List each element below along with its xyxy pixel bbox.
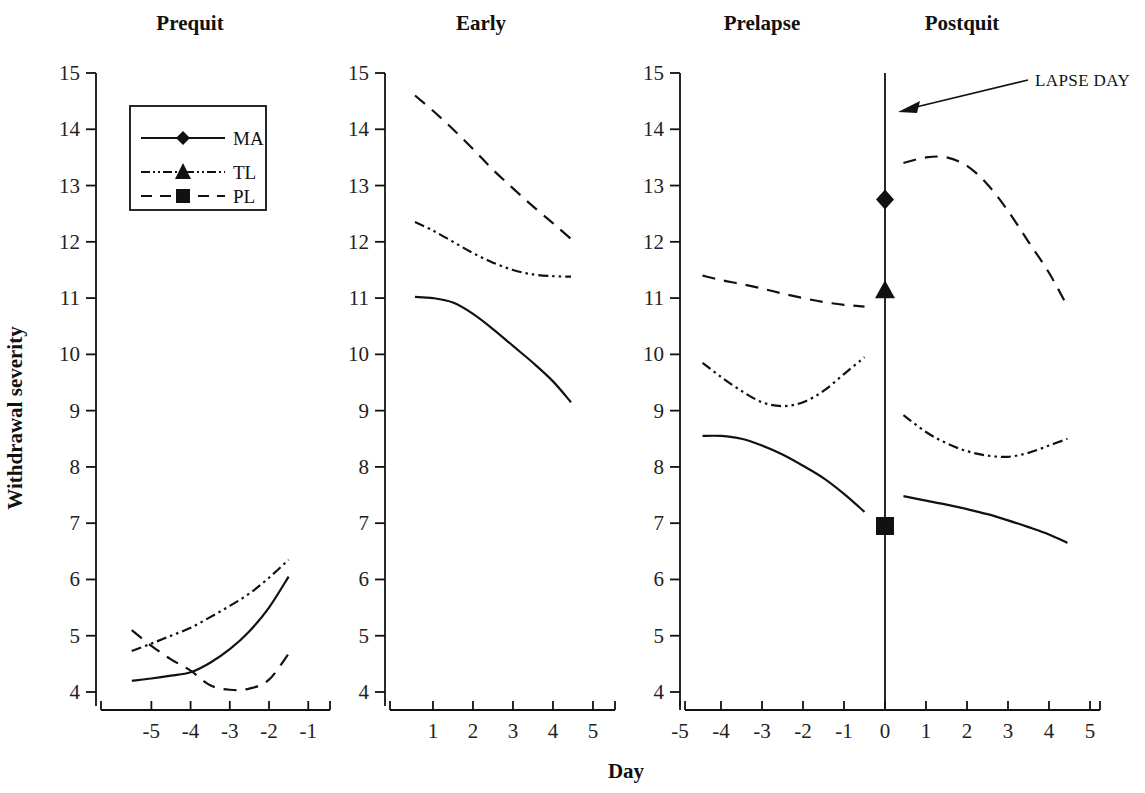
- y-tick-label: 14: [643, 117, 665, 141]
- x-tick-label: 2: [962, 719, 973, 743]
- series-line-ma-postquit: [903, 496, 1067, 543]
- y-tick-label: 6: [359, 567, 370, 591]
- y-tick-label: 9: [70, 399, 81, 423]
- y-tick-label: 4: [70, 680, 81, 704]
- y-tick-label: 13: [348, 174, 369, 198]
- lapse-day-annotation: LAPSE DAY: [898, 71, 1130, 113]
- x-tick-label: 3: [508, 719, 519, 743]
- x-tick-label: -2: [260, 719, 278, 743]
- triangle-icon: [875, 280, 895, 298]
- x-tick-label: -4: [182, 719, 200, 743]
- legend-label-pl: PL: [233, 186, 255, 207]
- y-tick-label: 15: [59, 61, 80, 85]
- legend-label-ma: MA: [233, 128, 264, 149]
- y-tick-label: 13: [59, 174, 80, 198]
- lapse-day-label: LAPSE DAY: [1035, 71, 1130, 90]
- y-tick-label: 15: [643, 61, 664, 85]
- x-tick-label: -5: [671, 719, 689, 743]
- y-tick-label: 7: [359, 511, 370, 535]
- y-tick-label: 12: [348, 230, 369, 254]
- square-icon: [176, 189, 190, 203]
- series-line-tl-postquit: [903, 415, 1067, 457]
- x-tick-label: -4: [712, 719, 730, 743]
- y-tick-label: 14: [59, 117, 81, 141]
- y-tick-label: 11: [644, 286, 664, 310]
- diamond-icon: [876, 190, 894, 210]
- y-tick-label: 10: [59, 342, 80, 366]
- series-line-pl-prequit: [132, 630, 289, 690]
- panel-title-prequit: Prequit: [156, 11, 223, 35]
- lapse-day-marker-layer: [875, 73, 895, 710]
- x-tick-label: 0: [880, 719, 891, 743]
- x-tick-label: -2: [794, 719, 812, 743]
- y-tick-label: 7: [70, 511, 81, 535]
- y-tick-label: 8: [359, 455, 370, 479]
- data-series-layer: [132, 96, 1068, 691]
- series-line-tl-prequit: [132, 560, 289, 651]
- figure-canvas: Prequit Early Prelapse Postquit Withdraw…: [0, 0, 1145, 793]
- series-line-pl-postquit: [903, 157, 1067, 307]
- x-tick-label: 1: [921, 719, 932, 743]
- x-tick-label: -5: [143, 719, 161, 743]
- x-tick-label: 5: [588, 719, 599, 743]
- x-tick-label: 1: [428, 719, 439, 743]
- y-tick-label: 9: [359, 399, 370, 423]
- x-tick-label: 3: [1003, 719, 1014, 743]
- panel-title-early: Early: [456, 11, 507, 35]
- lapse-day-arrow-head: [898, 101, 920, 113]
- x-tick-label: -3: [753, 719, 771, 743]
- y-tick-label: 6: [654, 567, 665, 591]
- y-tick-label: 10: [348, 342, 369, 366]
- legend-label-tl: TL: [233, 162, 256, 183]
- x-tick-label: 2: [468, 719, 479, 743]
- y-tick-label: 10: [643, 342, 664, 366]
- y-tick-label: 14: [348, 117, 370, 141]
- x-tick-label: 4: [1044, 719, 1055, 743]
- y-tick-label: 15: [348, 61, 369, 85]
- series-line-tl-early: [415, 222, 571, 277]
- series-line-ma-prelapse: [703, 436, 865, 512]
- series-line-ma-prequit: [132, 577, 289, 681]
- series-line-pl-early: [415, 96, 571, 239]
- lapse-day-arrow-shaft: [912, 80, 1028, 108]
- y-tick-label: 7: [654, 511, 665, 535]
- series-line-ma-early: [415, 297, 571, 402]
- panel-title-postquit: Postquit: [925, 11, 1000, 35]
- y-tick-label: 4: [654, 680, 665, 704]
- square-icon: [876, 517, 894, 535]
- y-tick-label: 5: [654, 624, 665, 648]
- legend[interactable]: MA TL PL: [130, 106, 266, 210]
- y-tick-label: 9: [654, 399, 665, 423]
- x-tick-label: -3: [221, 719, 239, 743]
- series-line-pl-prelapse: [703, 276, 865, 307]
- y-tick-label: 11: [60, 286, 80, 310]
- y-axis-label: Withdrawal severity: [3, 326, 27, 510]
- y-tick-label: 4: [359, 680, 370, 704]
- y-tick-label: 13: [643, 174, 664, 198]
- x-tick-label: 4: [548, 719, 559, 743]
- panel-title-prelapse: Prelapse: [724, 11, 801, 35]
- x-tick-label: -1: [299, 719, 317, 743]
- series-line-tl-prelapse: [703, 357, 865, 406]
- y-tick-label: 12: [59, 230, 80, 254]
- x-tick-label: -1: [835, 719, 853, 743]
- y-tick-label: 6: [70, 567, 81, 591]
- x-tick-label: 5: [1085, 719, 1096, 743]
- y-tick-label: 5: [359, 624, 370, 648]
- y-tick-label: 8: [70, 455, 81, 479]
- y-tick-label: 5: [70, 624, 81, 648]
- withdrawal-severity-figure: Prequit Early Prelapse Postquit Withdraw…: [0, 0, 1145, 793]
- y-tick-label: 11: [349, 286, 369, 310]
- y-tick-label: 12: [643, 230, 664, 254]
- y-tick-label: 8: [654, 455, 665, 479]
- x-axis-label: Day: [608, 759, 645, 783]
